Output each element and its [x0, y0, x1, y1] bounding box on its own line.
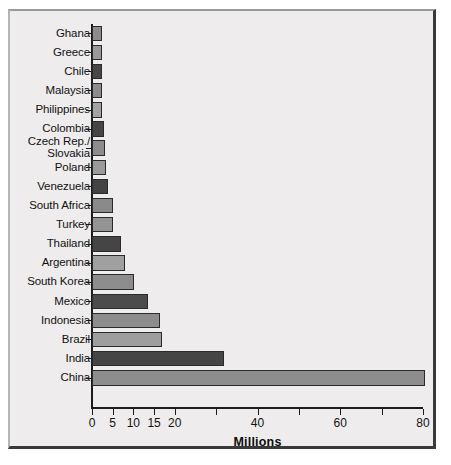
- category-label: Brazil: [0, 334, 90, 346]
- bar-row: Thailand: [10, 235, 438, 254]
- x-tick-label: 10: [127, 416, 140, 430]
- bar[interactable]: [92, 255, 125, 270]
- bar-track: [92, 177, 422, 196]
- x-tick-label: 60: [334, 416, 347, 430]
- bar-track: [92, 139, 422, 158]
- bar-track: [92, 330, 422, 349]
- bar-track: [92, 311, 422, 330]
- bar-track: [92, 349, 422, 368]
- category-label: Malaysia: [0, 85, 90, 97]
- bar-row: Turkey: [10, 215, 438, 234]
- bar-track: [92, 235, 422, 254]
- bar-track: [92, 43, 422, 62]
- x-tick: [340, 409, 341, 415]
- category-label: India: [0, 353, 90, 365]
- bar[interactable]: [92, 179, 108, 194]
- bar[interactable]: [92, 274, 134, 289]
- bar-row: Greece: [10, 43, 438, 62]
- category-label: Argentina: [0, 257, 90, 269]
- bar-track: [92, 273, 422, 292]
- bar[interactable]: [92, 102, 102, 117]
- category-label: Greece: [0, 47, 90, 59]
- chart-figure: GhanaGreeceChileMalaysiaPhilippinesColom…: [0, 0, 451, 465]
- bar[interactable]: [92, 198, 113, 213]
- bar-row: Malaysia: [10, 81, 438, 100]
- bar[interactable]: [92, 294, 148, 309]
- bar-row: Philippines: [10, 101, 438, 120]
- category-label: Chile: [0, 66, 90, 78]
- bar[interactable]: [92, 26, 102, 41]
- bar[interactable]: [92, 332, 162, 347]
- bar[interactable]: [92, 64, 102, 79]
- x-tick-label: 20: [168, 416, 181, 430]
- bar-track: [92, 120, 422, 139]
- bar-row: Mexico: [10, 292, 438, 311]
- category-label: Turkey: [0, 219, 90, 231]
- x-axis-title: Millions: [92, 435, 423, 449]
- bar-row: Brazil: [10, 330, 438, 349]
- category-label: Czech Rep./ Slovakia: [0, 136, 90, 160]
- bar-track: [92, 215, 422, 234]
- bar-chart: GhanaGreeceChileMalaysiaPhilippinesColom…: [10, 11, 438, 451]
- x-tick: [216, 409, 217, 415]
- x-tick-label: 80: [416, 416, 429, 430]
- x-tick: [299, 409, 300, 415]
- x-tick-label: 40: [251, 416, 264, 430]
- bar-track: [92, 158, 422, 177]
- x-tick-label: 0: [89, 416, 96, 430]
- category-label: China: [0, 372, 90, 384]
- bar[interactable]: [92, 236, 121, 251]
- plot-area: GhanaGreeceChileMalaysiaPhilippinesColom…: [10, 11, 438, 451]
- category-label: Mexico: [0, 296, 90, 308]
- category-label: Ghana: [0, 28, 90, 40]
- category-label: Philippines: [0, 104, 90, 116]
- bar[interactable]: [92, 160, 106, 175]
- category-label: Thailand: [0, 238, 90, 250]
- category-label: South Korea: [0, 276, 90, 288]
- bar-track: [92, 254, 422, 273]
- bar[interactable]: [92, 140, 105, 155]
- bar-row: Indonesia: [10, 311, 438, 330]
- bar-row: India: [10, 349, 438, 368]
- bar-track: [92, 196, 422, 215]
- bar-row: Venezuela: [10, 177, 438, 196]
- bar-track: [92, 369, 422, 388]
- bar[interactable]: [92, 370, 425, 385]
- x-tick: [92, 409, 93, 415]
- category-label: Colombia: [0, 123, 90, 135]
- bar-track: [92, 292, 422, 311]
- x-tick-label: 5: [109, 416, 116, 430]
- bar-row: China: [10, 369, 438, 388]
- category-label: South Africa: [0, 200, 90, 212]
- x-tick-label: 15: [147, 416, 160, 430]
- bar-row: Poland: [10, 158, 438, 177]
- bar-row: Chile: [10, 62, 438, 81]
- bar[interactable]: [92, 45, 102, 60]
- bar-rows: GhanaGreeceChileMalaysiaPhilippinesColom…: [10, 24, 438, 407]
- bar-track: [92, 81, 422, 100]
- bar-track: [92, 101, 422, 120]
- x-tick: [113, 409, 114, 415]
- category-label: Indonesia: [0, 315, 90, 327]
- bar[interactable]: [92, 121, 104, 136]
- x-tick: [258, 409, 259, 415]
- bar[interactable]: [92, 351, 224, 366]
- category-label: Venezuela: [0, 181, 90, 193]
- bar-row: Ghana: [10, 24, 438, 43]
- bar[interactable]: [92, 217, 113, 232]
- bar-row: South Korea: [10, 273, 438, 292]
- bar-track: [92, 62, 422, 81]
- x-tick: [175, 409, 176, 415]
- bar[interactable]: [92, 83, 102, 98]
- x-tick: [382, 409, 383, 415]
- bar-row: Argentina: [10, 254, 438, 273]
- bar-row: South Africa: [10, 196, 438, 215]
- chart-frame: GhanaGreeceChileMalaysiaPhilippinesColom…: [8, 9, 436, 449]
- x-tick: [133, 409, 134, 415]
- bar-row: Czech Rep./ Slovakia: [10, 139, 438, 158]
- category-label: Poland: [0, 162, 90, 174]
- bar[interactable]: [92, 313, 160, 328]
- x-tick: [423, 409, 424, 415]
- x-tick: [154, 409, 155, 415]
- bar-track: [92, 24, 422, 43]
